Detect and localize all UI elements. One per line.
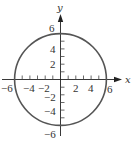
x-tick-label-6: 6 [107,83,113,95]
y-axis: y [56,2,63,136]
y-axis-label: y [56,2,63,13]
x-axis-label: x [125,74,131,85]
y-axis-arrow-icon [58,14,63,22]
x-tick-label-neg6: −6 [1,82,13,94]
x-tick-labels: −6 −4 −2 2 4 6 [1,82,113,95]
x-tick-label-4: 4 [88,82,94,94]
y-tick-label-2: 2 [50,58,56,70]
x-tick-label-2: 2 [73,82,79,94]
x-axis-arrow-icon [114,77,122,82]
y-tick-label-neg6: −6 [44,128,56,140]
y-tick-label-4: 4 [50,43,56,55]
coordinate-plane: x y −6 −4 −2 2 4 [0,0,136,148]
x-tick-label-neg4: −4 [23,82,35,94]
y-tick-label-neg2: −2 [44,91,56,103]
y-tick-label-neg4: −4 [44,105,56,117]
y-tick-label-6: 6 [49,22,55,34]
